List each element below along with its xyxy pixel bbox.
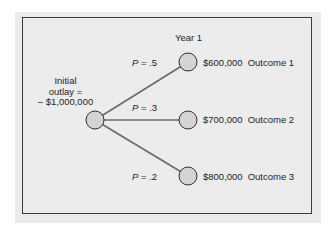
outcome-amount: $800,000 (203, 171, 243, 182)
probability-value: .3 (149, 102, 157, 113)
probability-value: .5 (149, 57, 157, 68)
outcome-amount: $600,000 (203, 57, 243, 68)
outcome-label-2: $700,000Outcome 2 (203, 114, 294, 125)
outcome-label-3: $800,000Outcome 3 (203, 171, 294, 182)
probability-equals: = (138, 102, 149, 113)
branch-line-3 (95, 120, 188, 176)
probability-value: .2 (149, 171, 157, 182)
outcome-node-1 (179, 53, 197, 71)
outcome-name: Outcome 3 (248, 171, 294, 182)
probability-equals: = (138, 57, 149, 68)
outcome-node-2 (179, 111, 197, 129)
branch-lines (95, 62, 188, 176)
probability-label-1: P = .5 (132, 57, 157, 68)
outcome-amount: $700,000 (203, 114, 243, 125)
outcome-name: Outcome 2 (248, 114, 294, 125)
outcome-node-3 (179, 167, 197, 185)
initial-outlay-label: Initial outlay = – $1,000,000 (28, 76, 103, 108)
outcome-label-1: $600,000Outcome 1 (203, 57, 294, 68)
initial-outlay-line-3: – $1,000,000 (28, 97, 103, 108)
probability-equals: = (138, 171, 149, 182)
root-node (86, 111, 104, 129)
probability-label-3: P = .2 (132, 171, 157, 182)
probability-label-2: P = .3 (132, 102, 157, 113)
outcome-name: Outcome 1 (248, 57, 294, 68)
period-label: Year 1 (175, 32, 202, 43)
initial-outlay-line-1: Initial (28, 76, 103, 87)
